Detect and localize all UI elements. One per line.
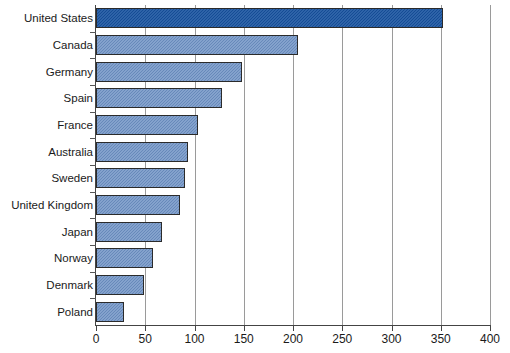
bar-germany[interactable] bbox=[96, 62, 242, 82]
x-axis-label-300: 300 bbox=[372, 332, 412, 346]
y-axis-tick bbox=[90, 218, 96, 219]
category-label-germany: Germany bbox=[0, 66, 93, 78]
bar-sweden[interactable] bbox=[96, 168, 185, 188]
plot-area bbox=[96, 5, 490, 325]
category-label-united-states: United States bbox=[0, 12, 93, 24]
bar-france[interactable] bbox=[96, 115, 198, 135]
x-axis-label-50: 50 bbox=[125, 332, 165, 346]
x-axis-tick bbox=[145, 326, 146, 331]
y-axis-tick bbox=[90, 165, 96, 166]
x-axis-tick bbox=[293, 326, 294, 331]
bar-norway[interactable] bbox=[96, 248, 153, 268]
x-axis-tick bbox=[342, 326, 343, 331]
gridline bbox=[342, 5, 343, 325]
bar-united-states[interactable] bbox=[96, 8, 443, 28]
x-axis-tick bbox=[490, 326, 491, 331]
bar-canada[interactable] bbox=[96, 35, 298, 55]
category-label-poland: Poland bbox=[0, 306, 93, 318]
category-label-australia: Australia bbox=[0, 146, 93, 158]
category-label-spain: Spain bbox=[0, 92, 93, 104]
category-axis-labels: United StatesCanadaGermanySpainFranceAus… bbox=[0, 5, 93, 325]
bar-united-kingdom[interactable] bbox=[96, 195, 180, 215]
bar-poland[interactable] bbox=[96, 302, 124, 322]
x-axis-label-150: 150 bbox=[224, 332, 264, 346]
y-axis-tick bbox=[90, 85, 96, 86]
y-axis-tick bbox=[90, 32, 96, 33]
x-axis-tick bbox=[244, 326, 245, 331]
bar-chart: United StatesCanadaGermanySpainFranceAus… bbox=[0, 0, 510, 353]
category-label-sweden: Sweden bbox=[0, 172, 93, 184]
bar-japan[interactable] bbox=[96, 222, 162, 242]
x-axis-tick bbox=[96, 326, 97, 331]
category-label-norway: Norway bbox=[0, 252, 93, 264]
x-axis-label-350: 350 bbox=[421, 332, 461, 346]
x-axis-tick bbox=[441, 326, 442, 331]
y-axis-tick bbox=[90, 245, 96, 246]
y-axis-tick bbox=[90, 58, 96, 59]
y-axis-tick bbox=[90, 138, 96, 139]
y-axis-tick bbox=[90, 112, 96, 113]
gridline bbox=[490, 5, 491, 325]
category-label-united-kingdom: United Kingdom bbox=[0, 199, 93, 211]
category-label-japan: Japan bbox=[0, 226, 93, 238]
gridline bbox=[441, 5, 442, 325]
x-axis-label-0: 0 bbox=[76, 332, 116, 346]
x-axis-tick bbox=[195, 326, 196, 331]
x-axis-label-100: 100 bbox=[175, 332, 215, 346]
x-axis-label-250: 250 bbox=[322, 332, 362, 346]
category-label-denmark: Denmark bbox=[0, 279, 93, 291]
y-axis-tick bbox=[90, 192, 96, 193]
y-axis-tick bbox=[90, 298, 96, 299]
category-label-france: France bbox=[0, 119, 93, 131]
bar-denmark[interactable] bbox=[96, 275, 144, 295]
y-axis-tick bbox=[90, 272, 96, 273]
x-axis-label-400: 400 bbox=[470, 332, 510, 346]
x-axis-label-200: 200 bbox=[273, 332, 313, 346]
x-axis-tick bbox=[392, 326, 393, 331]
category-label-canada: Canada bbox=[0, 39, 93, 51]
gridline bbox=[392, 5, 393, 325]
bar-spain[interactable] bbox=[96, 88, 222, 108]
bar-australia[interactable] bbox=[96, 142, 188, 162]
